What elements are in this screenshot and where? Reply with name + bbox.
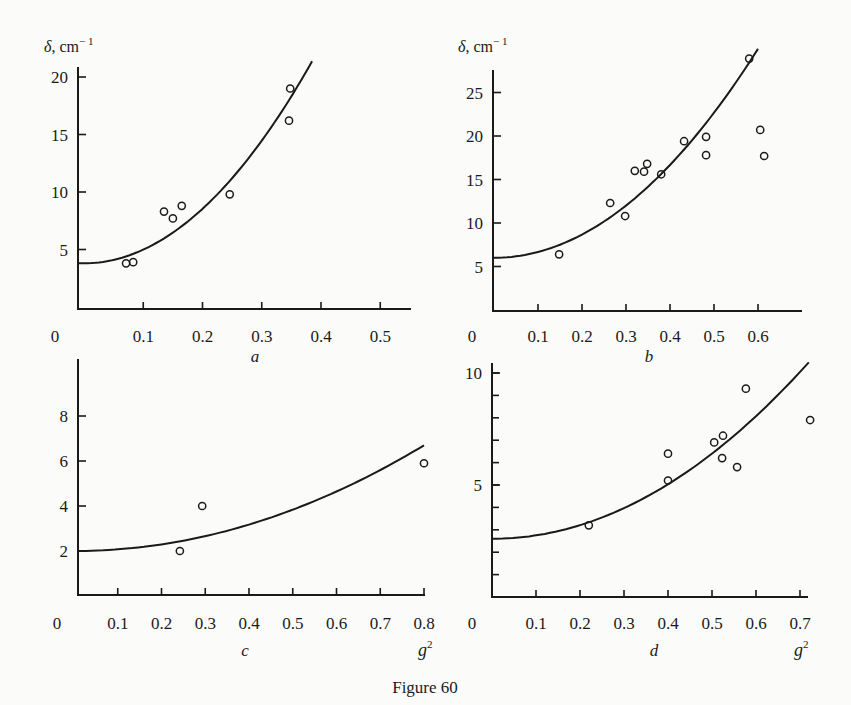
data-point [711, 439, 718, 446]
data-point [607, 199, 614, 206]
data-point [702, 152, 709, 159]
data-point [285, 117, 292, 124]
x-tick-label: 0.5 [282, 614, 303, 633]
x-tick-label: 0.4 [238, 614, 260, 633]
fit-curve [78, 445, 424, 551]
data-point [742, 385, 749, 392]
y-tick-label: 10 [465, 364, 482, 383]
x-tick-label: 0.6 [326, 614, 347, 633]
y-tick-label: 5 [475, 258, 484, 277]
x-tick-label: 0.7 [370, 614, 392, 633]
y-tick-label: 5 [60, 241, 69, 260]
panel-label: a [251, 347, 260, 366]
data-point [733, 463, 740, 470]
y-tick-label: 10 [51, 183, 68, 202]
y-axis-title: δ, cm− 1 [44, 35, 93, 55]
y-tick-label: 10 [466, 214, 483, 233]
fit-curve [493, 49, 758, 258]
x-tick-label: 0.2 [571, 327, 592, 346]
figure-caption: Figure 60 [392, 678, 458, 697]
data-point [719, 455, 726, 462]
data-point [631, 167, 638, 174]
data-point [169, 215, 176, 222]
data-point [807, 416, 814, 423]
panel-c: 00.10.20.30.40.50.60.70.82468cg2 [53, 359, 435, 660]
x-tick-label: 0.8 [413, 614, 434, 633]
x-tick-label: 0 [51, 327, 60, 346]
panel-label: c [241, 641, 249, 660]
y-tick-label: 2 [60, 542, 69, 561]
x-tick-label: 0.2 [151, 614, 172, 633]
x-tick-label: 0.7 [789, 614, 811, 633]
y-tick-label: 25 [466, 84, 483, 103]
y-tick-label: 8 [60, 407, 69, 426]
data-point [622, 212, 629, 219]
data-point [178, 202, 185, 209]
data-point [761, 152, 768, 159]
data-point [160, 208, 167, 215]
data-point [226, 191, 233, 198]
panel-b: 00.10.20.30.40.50.6510152025bδ, cm− 1 [458, 35, 802, 366]
x-tick-label: 0 [468, 327, 477, 346]
x-axis-title: g2 [794, 638, 809, 660]
y-tick-label: 6 [60, 452, 69, 471]
y-tick-label: 4 [60, 497, 69, 516]
y-tick-label: 20 [466, 127, 483, 146]
data-point [719, 432, 726, 439]
x-tick-label: 0.5 [370, 327, 391, 346]
y-tick-label: 15 [466, 171, 483, 190]
fit-curve [492, 362, 809, 539]
data-point [122, 260, 129, 267]
data-point [680, 138, 687, 145]
x-tick-label: 0 [53, 614, 62, 633]
data-point [757, 126, 764, 133]
panel-a: 00.10.20.30.40.55101520aδ, cm− 1 [44, 35, 411, 366]
data-point [420, 460, 427, 467]
fit-curve [78, 61, 312, 263]
x-tick-label: 0.5 [703, 327, 724, 346]
x-tick-label: 0.1 [525, 614, 546, 633]
x-tick-label: 0.6 [747, 327, 768, 346]
panel-label: b [645, 347, 654, 366]
x-tick-label: 0.1 [527, 327, 548, 346]
panel-label: d [650, 641, 659, 660]
x-tick-label: 0 [468, 614, 477, 633]
x-tick-label: 0.3 [251, 327, 272, 346]
x-axis-title: g2 [418, 638, 433, 660]
data-point [644, 160, 651, 167]
data-point [176, 547, 183, 554]
y-axis-title: δ, cm− 1 [458, 35, 507, 55]
x-tick-label: 0.6 [745, 614, 766, 633]
x-tick-label: 0.3 [615, 327, 636, 346]
x-tick-label: 0.3 [613, 614, 634, 633]
y-tick-label: 20 [51, 68, 68, 87]
data-point [287, 85, 294, 92]
x-tick-label: 0.4 [657, 614, 679, 633]
data-point [664, 450, 671, 457]
y-tick-label: 15 [51, 126, 68, 145]
x-tick-label: 0.2 [569, 614, 590, 633]
panel-d: 00.10.20.30.40.50.60.7510dg2 [465, 362, 814, 660]
figure-60: 00.10.20.30.40.55101520aδ, cm− 100.10.20… [0, 0, 851, 705]
x-tick-label: 0.4 [310, 327, 332, 346]
x-tick-label: 0.4 [659, 327, 681, 346]
y-tick-label: 5 [474, 476, 483, 495]
data-point [556, 251, 563, 258]
x-tick-label: 0.1 [133, 327, 154, 346]
data-point [702, 133, 709, 140]
x-tick-label: 0.5 [701, 614, 722, 633]
data-point [199, 502, 206, 509]
data-point [640, 168, 647, 175]
x-tick-label: 0.2 [192, 327, 213, 346]
x-tick-label: 0.1 [107, 614, 128, 633]
x-tick-label: 0.3 [195, 614, 216, 633]
data-point [130, 259, 137, 266]
